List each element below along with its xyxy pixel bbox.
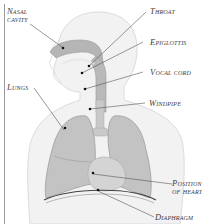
dot-diaphragm: [97, 189, 100, 192]
dot-heart: [92, 172, 95, 175]
label-vocal-cord: Vocal cord: [150, 68, 191, 76]
label-throat: Throat: [150, 7, 175, 15]
dot-throat: [88, 65, 91, 68]
trachea: [96, 100, 104, 132]
dot-epiglottis: [81, 72, 84, 75]
label-windpipe: Windpipe: [149, 99, 181, 107]
dot-lungs: [64, 127, 67, 130]
leader-nasal: [30, 24, 62, 47]
dot-nasal: [62, 47, 65, 50]
dot-vocal-cord: [84, 88, 87, 91]
label-epiglottis: Epiglottis: [150, 38, 187, 46]
label-nasal-cavity: Nasal cavity: [7, 7, 28, 23]
label-heart: Position of heart: [172, 179, 202, 195]
dot-windpipe: [89, 108, 92, 111]
respiratory-diagram: Nasal cavity Throat Epiglottis Vocal cor…: [0, 0, 202, 224]
label-diaphragm: Diaphragm: [155, 213, 193, 221]
label-lungs: Lungs: [7, 83, 28, 91]
